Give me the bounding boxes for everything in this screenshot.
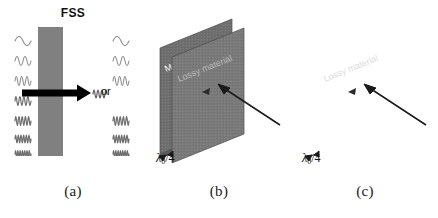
figure-root: FSS [0,0,438,218]
panel-c: Metal ground plane [292,0,438,218]
lambda-divider-b: /4 [165,151,174,165]
lambda-divider-c: /4 [311,151,320,165]
panel-b: Metal ground plane Lossy material [146,0,292,218]
panel-a: FSS [0,0,146,218]
transmission-arrow [22,84,92,102]
caption-b: (b) [146,183,292,200]
transmitted-waveform-group [110,30,136,156]
spacing-label-b: λ0/4 [156,151,175,166]
caption-a: (a) [0,183,146,200]
spacing-label-c: λ0/4 [302,151,321,166]
caption-c: (c) [292,183,438,200]
fss-label: FSS [0,6,146,20]
